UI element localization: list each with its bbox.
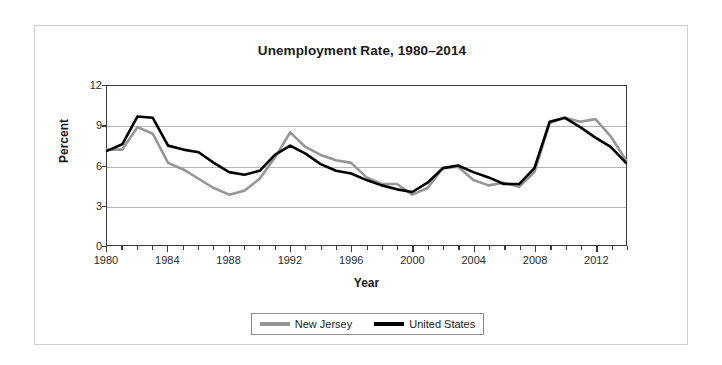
x-tick-label-1996: 1996 bbox=[328, 254, 374, 266]
x-tick-2008 bbox=[535, 246, 536, 252]
x-tick-2004 bbox=[474, 246, 475, 252]
chart-figure: Unemployment Rate, 1980–2014 Percent 036… bbox=[34, 25, 688, 345]
x-tick-1986 bbox=[198, 246, 199, 250]
x-tick-2010 bbox=[566, 246, 567, 250]
x-tick-1989 bbox=[244, 246, 245, 250]
x-tick-2000 bbox=[412, 246, 413, 252]
y-tick-label-6: 6 bbox=[76, 160, 102, 172]
legend-entry-united-states: United States bbox=[374, 318, 475, 330]
y-tick-label-12: 12 bbox=[76, 79, 102, 91]
x-tick-label-2000: 2000 bbox=[389, 254, 435, 266]
x-tick-2011 bbox=[581, 246, 582, 250]
series-line-united-states bbox=[107, 116, 626, 192]
x-tick-2003 bbox=[458, 246, 459, 250]
x-axis-ticks bbox=[106, 246, 627, 253]
x-tick-1995 bbox=[336, 246, 337, 250]
y-tick-label-0: 0 bbox=[76, 240, 102, 252]
legend-label: United States bbox=[409, 318, 475, 330]
x-axis-tick-labels: 198019841988199219962000200420082012 bbox=[106, 254, 627, 270]
legend-swatch-icon bbox=[260, 322, 290, 325]
x-tick-1990 bbox=[259, 246, 260, 250]
x-tick-2012 bbox=[596, 246, 597, 252]
x-tick-label-1988: 1988 bbox=[206, 254, 252, 266]
x-tick-1996 bbox=[351, 246, 352, 252]
x-tick-1987 bbox=[213, 246, 214, 250]
legend-entry-new-jersey: New Jersey bbox=[260, 318, 352, 330]
x-tick-1982 bbox=[137, 246, 138, 250]
x-tick-label-1980: 1980 bbox=[83, 254, 129, 266]
x-axis-title: Year bbox=[106, 276, 627, 290]
x-tick-1994 bbox=[321, 246, 322, 250]
x-tick-2007 bbox=[520, 246, 521, 250]
x-tick-2006 bbox=[504, 246, 505, 250]
x-tick-1984 bbox=[167, 246, 168, 252]
y-tick-label-3: 3 bbox=[76, 200, 102, 212]
x-tick-2009 bbox=[550, 246, 551, 250]
x-tick-1999 bbox=[397, 246, 398, 250]
x-tick-1997 bbox=[367, 246, 368, 250]
x-tick-1980 bbox=[106, 246, 107, 252]
y-axis-tick-labels: 036912 bbox=[72, 85, 102, 246]
x-tick-1992 bbox=[290, 246, 291, 252]
x-tick-1991 bbox=[275, 246, 276, 250]
x-tick-2014 bbox=[627, 246, 628, 250]
x-tick-1985 bbox=[183, 246, 184, 250]
x-tick-2002 bbox=[443, 246, 444, 250]
y-tick-label-9: 9 bbox=[76, 119, 102, 131]
x-tick-2013 bbox=[612, 246, 613, 250]
x-tick-1988 bbox=[229, 246, 230, 252]
x-tick-label-1992: 1992 bbox=[267, 254, 313, 266]
x-tick-label-2004: 2004 bbox=[451, 254, 497, 266]
plot-area bbox=[106, 85, 627, 246]
x-tick-label-2012: 2012 bbox=[573, 254, 619, 266]
legend-swatch-icon bbox=[374, 322, 404, 325]
x-tick-1998 bbox=[382, 246, 383, 250]
x-tick-label-2008: 2008 bbox=[512, 254, 558, 266]
x-tick-label-1984: 1984 bbox=[144, 254, 190, 266]
x-tick-1983 bbox=[152, 246, 153, 250]
y-axis-title: Percent bbox=[57, 99, 71, 183]
x-tick-1981 bbox=[121, 246, 122, 250]
legend-label: New Jersey bbox=[295, 318, 352, 330]
x-tick-1993 bbox=[305, 246, 306, 250]
chart-legend: New JerseyUnited States bbox=[251, 313, 484, 335]
series-lines bbox=[107, 86, 626, 245]
x-tick-2001 bbox=[428, 246, 429, 250]
x-tick-2005 bbox=[489, 246, 490, 250]
chart-title: Unemployment Rate, 1980–2014 bbox=[35, 43, 689, 58]
